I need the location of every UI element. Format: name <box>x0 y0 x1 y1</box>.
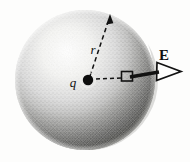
point-charge-dot <box>83 75 93 85</box>
field-label-E: E <box>159 47 169 63</box>
point-charge <box>81 73 96 88</box>
charge-label-q: q <box>70 75 77 90</box>
figure-root: q r E <box>0 0 190 162</box>
figure-canvas: q r E <box>0 0 190 162</box>
